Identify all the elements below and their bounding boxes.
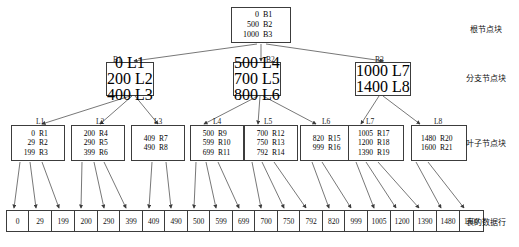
root-node[interactable]: 0 B1 500 B2 1000 B3: [231, 7, 291, 43]
b2-entry-1-key: 700: [234, 71, 262, 87]
data-cell[interactable]: 999: [345, 211, 368, 231]
data-cell[interactable]: 820: [323, 211, 345, 231]
side-label-root-level: 根节点块: [470, 23, 502, 34]
root-entry-0-ptr: B1: [263, 11, 283, 19]
l6-entry-0-key: 820: [306, 135, 328, 143]
l3-entry-1-key: 490: [137, 144, 159, 152]
root-entry-1: 500 B2: [232, 20, 290, 30]
root-entry-2-key: 1000: [239, 31, 263, 39]
l1-entry-2-key: 199: [17, 149, 39, 157]
l8-entry-0-key: 1480: [418, 135, 440, 143]
l2-entry-1-key: 290: [77, 139, 99, 147]
leaf-node-l5[interactable]: 700R12 750R13 792R14: [244, 125, 298, 161]
root-entry-2-ptr: B3: [263, 31, 283, 39]
l5-entry-2-key: 792: [250, 149, 272, 157]
b2-entry-0-ptr: L4: [262, 55, 280, 71]
l1-entry-0-ptr: R1: [39, 130, 59, 138]
l2-entry-2-key: 399: [77, 149, 99, 157]
l7-entry-0-ptr: R17: [377, 130, 397, 138]
data-cell[interactable]: 29: [29, 211, 52, 231]
l1-entry-1-ptr: R2: [39, 139, 59, 147]
data-cell[interactable]: 699: [233, 211, 255, 231]
b2-entry-1-ptr: L5: [262, 71, 280, 87]
l7-entry-2-key: 1390: [355, 149, 377, 157]
data-cell[interactable]: 500: [188, 211, 210, 231]
l3-entry-0-key: 409: [137, 135, 159, 143]
root-entry-0: 0 B1: [232, 10, 290, 20]
b1-entry-0-ptr: L1: [127, 55, 145, 71]
l2-entry-0-ptr: R4: [99, 130, 119, 138]
l4-entry-2-ptr: R11: [218, 149, 238, 157]
data-cell[interactable]: 290: [98, 211, 120, 231]
l6-entry-0-ptr: R15: [328, 135, 348, 143]
branch-node-b3[interactable]: 1000L7 1400L8: [355, 62, 411, 96]
leaf-node-l7[interactable]: 1005R17 1200R18 1390R19: [348, 125, 404, 161]
data-cell[interactable]: 599: [210, 211, 233, 231]
l3-entry-0-ptr: R7: [159, 135, 179, 143]
data-cell[interactable]: 490: [165, 211, 188, 231]
b1-entry-2-key: 400: [107, 87, 135, 103]
leaf-node-l6[interactable]: 820R15 999R16: [300, 125, 354, 161]
l7-entry-1-ptr: R18: [377, 139, 397, 147]
data-cell[interactable]: 200: [75, 211, 98, 231]
l4-entry-0-ptr: R9: [218, 130, 238, 138]
l2-entry-1-ptr: R5: [99, 139, 119, 147]
data-cell[interactable]: 199: [52, 211, 75, 231]
data-cell[interactable]: 409: [143, 211, 165, 231]
l3-entry-1-ptr: R8: [159, 144, 179, 152]
l2-entry-0-key: 200: [77, 130, 99, 138]
data-cell[interactable]: 1390: [414, 211, 437, 231]
leaf-node-l2[interactable]: 200R4 290R5 399R6: [71, 125, 125, 161]
data-cell[interactable]: 1200: [391, 211, 414, 231]
data-cell[interactable]: 1005: [368, 211, 391, 231]
l5-entry-1-key: 750: [250, 139, 272, 147]
l8-entry-0-ptr: R20: [440, 135, 460, 143]
btree-index-diagram: 0 B1 500 B2 1000 B3 B1 0L1 200L2 400L3 B…: [0, 0, 519, 247]
b1-entry-0-key: 0: [115, 55, 127, 71]
root-entry-1-ptr: B2: [263, 21, 283, 29]
b2-entry-0-key: 500: [234, 55, 262, 71]
branch-node-b1[interactable]: 0L1 200L2 400L3: [106, 62, 154, 96]
l8-entry-1-ptr: R21: [440, 144, 460, 152]
data-cell[interactable]: 0: [7, 211, 29, 231]
l4-entry-1-key: 599: [196, 139, 218, 147]
leaf-node-l4[interactable]: 500R9 599R10 699R11: [190, 125, 244, 161]
l5-entry-2-ptr: R14: [272, 149, 292, 157]
b3-entry-0-ptr: L7: [392, 63, 410, 79]
b3-entry-1-ptr: L8: [392, 79, 410, 95]
l6-entry-1-ptr: R16: [328, 144, 348, 152]
l1-entry-1-key: 29: [17, 139, 39, 147]
root-entry-2: 1000 B3: [232, 30, 290, 40]
l7-entry-1-key: 1200: [355, 139, 377, 147]
l8-entry-1-key: 1600: [418, 144, 440, 152]
root-entry-1-key: 500: [239, 21, 263, 29]
side-label-branch-level: 分支节点块: [466, 72, 506, 83]
l6-entry-1-key: 999: [306, 144, 328, 152]
l7-entry-0-key: 1005: [355, 130, 377, 138]
b3-entry-1-key: 1400: [356, 79, 392, 95]
b1-entry-1-key: 200: [107, 71, 135, 87]
l4-entry-2-key: 699: [196, 149, 218, 157]
b3-entry-0-key: 1000: [356, 63, 392, 79]
leaf-node-l8[interactable]: 1480R20 1600R21: [411, 125, 467, 161]
data-cell[interactable]: 399: [120, 211, 143, 231]
l5-entry-0-key: 700: [250, 130, 272, 138]
b2-entry-2-key: 800: [234, 87, 262, 103]
data-cell[interactable]: 792: [300, 211, 323, 231]
leaf-node-l1[interactable]: 0R1 29R2 199R3: [11, 125, 65, 161]
l5-entry-0-ptr: R12: [272, 130, 292, 138]
leaf-node-l3[interactable]: 409R7 490R8: [131, 125, 185, 161]
b2-entry-2-ptr: L6: [262, 87, 280, 103]
side-label-leaf-level: 叶子节点块: [466, 137, 506, 148]
l7-entry-2-ptr: R19: [377, 149, 397, 157]
l1-entry-2-ptr: R3: [39, 149, 59, 157]
branch-node-b2[interactable]: 500L4 700L5 800L6: [233, 62, 281, 96]
root-entry-0-key: 0: [239, 11, 263, 19]
data-cell[interactable]: 700: [255, 211, 278, 231]
l4-entry-0-key: 500: [196, 130, 218, 138]
side-label-data-level: 表的数据行: [466, 216, 506, 227]
l1-entry-0-key: 0: [17, 130, 39, 138]
table-data-row-strip: 0 29 199 200 290 399 409 490 500 599 699…: [6, 210, 484, 232]
data-cell[interactable]: 1480: [437, 211, 460, 231]
data-cell[interactable]: 750: [278, 211, 300, 231]
